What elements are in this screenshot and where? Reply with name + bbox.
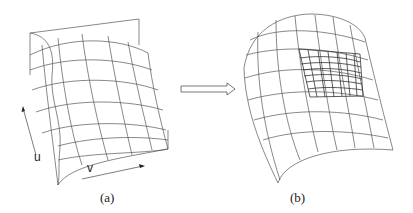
surface-a: [30, 19, 168, 185]
caption-a: (a): [100, 190, 114, 206]
caption-b: (b): [290, 190, 305, 206]
surface-b: [244, 14, 393, 183]
diagram-canvas: [0, 0, 413, 213]
u-axis-label: u: [34, 150, 41, 164]
hollow-right-arrow-icon: [181, 83, 235, 95]
v-axis-label: v: [87, 161, 93, 175]
u-axis-arrow: [22, 106, 37, 155]
